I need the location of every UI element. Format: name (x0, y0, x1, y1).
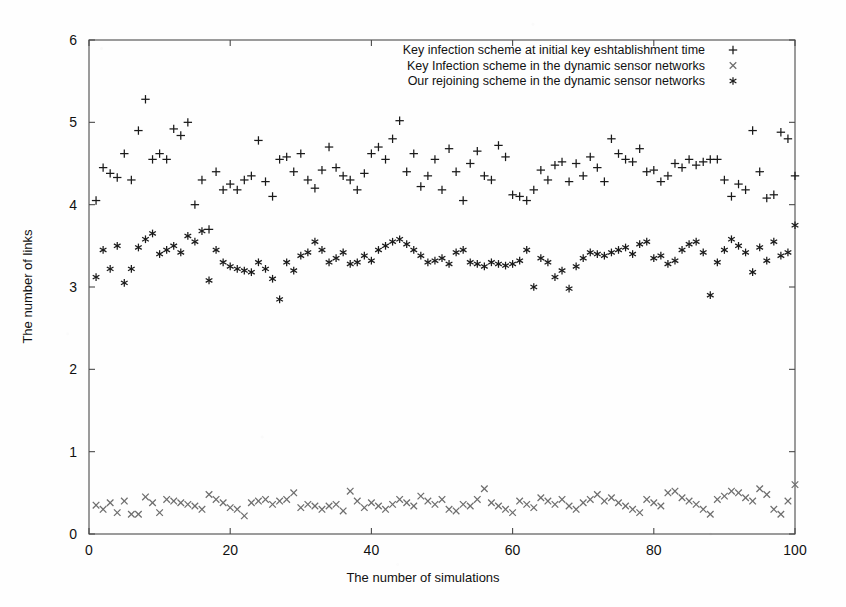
series-0 (92, 95, 799, 233)
plot-frame (89, 40, 795, 534)
y-tick-label: 2 (69, 361, 77, 377)
legend-label-2: Our rejoining scheme in the dynamic sens… (408, 74, 705, 88)
y-tick-label: 1 (69, 444, 77, 460)
x-tick-label: 80 (646, 542, 662, 558)
y-tick-label: 4 (69, 197, 77, 213)
legend-label-0: Key infection scheme at initial key esht… (403, 43, 705, 57)
x-tick-label: 20 (222, 542, 238, 558)
series-1 (93, 481, 798, 519)
plot-canvas: 0204060801000123456Key infection scheme … (0, 0, 846, 607)
x-tick-label: 0 (85, 542, 93, 558)
y-tick-label: 0 (69, 526, 77, 542)
scatter-plot-figure: 0204060801000123456Key infection scheme … (0, 0, 846, 607)
x-tick-label: 100 (783, 542, 807, 558)
x-tick-label: 40 (364, 542, 380, 558)
y-tick-label: 6 (69, 32, 77, 48)
y-tick-label: 5 (69, 114, 77, 130)
x-tick-label: 60 (505, 542, 521, 558)
x-axis-label: The number of simulations (0, 570, 846, 585)
legend-label-1: Key Infection scheme in the dynamic sens… (407, 59, 705, 73)
y-axis-label: The number of links (20, 197, 35, 377)
series-2 (93, 221, 799, 303)
y-tick-label: 3 (69, 279, 77, 295)
legend: Key infection scheme at initial key esht… (403, 43, 737, 88)
